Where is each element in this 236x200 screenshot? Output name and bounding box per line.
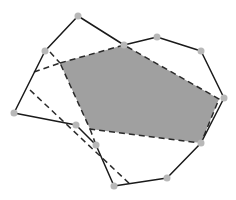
vertex-dot	[121, 42, 128, 49]
vertex-dot	[75, 13, 82, 20]
vertex-dot	[198, 140, 205, 147]
dashed-line	[50, 52, 60, 63]
shaded-intersection-region	[60, 45, 219, 143]
vertex-dot	[73, 122, 80, 129]
vertex-dot	[11, 110, 18, 117]
vertex-dot	[111, 183, 118, 190]
vertex-dot	[164, 175, 171, 182]
polygon-diagram	[0, 0, 236, 200]
vertex-dot	[221, 95, 228, 102]
vertex-dot	[198, 48, 205, 55]
vertex-dot	[93, 142, 100, 149]
vertex-dot	[154, 34, 161, 41]
vertex-dot	[42, 48, 49, 55]
